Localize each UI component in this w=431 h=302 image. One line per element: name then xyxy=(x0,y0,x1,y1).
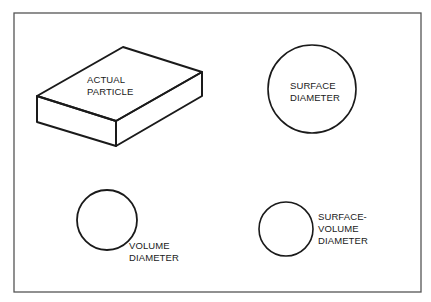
actual-particle-label-line-1: ACTUAL xyxy=(87,74,133,86)
volume-diameter-label-line-1: VOLUME xyxy=(129,240,179,252)
box-front-face xyxy=(37,96,116,146)
surface-diameter-label-line-2: DIAMETER xyxy=(290,92,340,104)
actual-particle-label-line-2: PARTICLE xyxy=(87,86,133,98)
volume-diameter-label-line-2: DIAMETER xyxy=(129,252,179,264)
surface-diameter-label: SURFACE DIAMETER xyxy=(290,80,340,104)
surface-volume-diameter-label-line-1: SURFACE- xyxy=(318,211,368,223)
surface-volume-diameter-circle xyxy=(259,202,313,256)
actual-particle-label: ACTUAL PARTICLE xyxy=(87,74,133,98)
figure-frame xyxy=(14,13,421,292)
surface-volume-diameter-label-line-2: VOLUME xyxy=(318,223,368,235)
surface-diameter-label-line-1: SURFACE xyxy=(290,80,340,92)
surface-volume-diameter-label: SURFACE- VOLUME DIAMETER xyxy=(318,211,368,247)
volume-diameter-label: VOLUME DIAMETER xyxy=(129,240,179,264)
diagram-canvas xyxy=(0,0,431,302)
volume-diameter-circle xyxy=(77,190,137,250)
surface-volume-diameter-label-line-3: DIAMETER xyxy=(318,235,368,247)
